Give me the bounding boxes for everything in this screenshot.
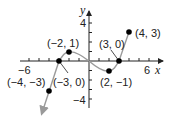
tick-label-6: 6 — [144, 64, 150, 76]
label-4-3: (4, 3) — [135, 27, 161, 39]
point-3-0 — [116, 58, 122, 64]
point-m2-1 — [66, 49, 72, 55]
tick-label-neg6: −6 — [18, 64, 31, 76]
label-m2-1: (−2, 1) — [47, 37, 79, 49]
y-axis-label: y — [79, 3, 86, 17]
label-m4-m3: (−4, −3) — [7, 76, 46, 88]
point-2-m1 — [106, 68, 112, 74]
label-2-m1: (2, −1) — [100, 76, 132, 88]
point-m3-0 — [56, 58, 62, 64]
point-m4-m3 — [46, 88, 52, 94]
label-m3-0: (−3, 0) — [53, 76, 85, 88]
label-3-0: (3, 0) — [99, 38, 125, 50]
point-4-3 — [126, 29, 132, 35]
x-axis-label: x — [154, 63, 161, 77]
tick-label-neg4: −4 — [73, 94, 86, 106]
function-graph: x y −6 6 4 −4 (−4, −3) (−3, 0) (−2, 1) (… — [0, 0, 173, 130]
tick-label-4: 4 — [80, 17, 86, 29]
